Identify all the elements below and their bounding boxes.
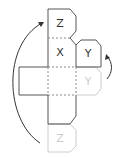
x-face-right-edge [70,38,76,67]
bottom-z-label: Z [56,132,64,145]
x-face-label: X [56,46,64,59]
flat-y-label: Y [84,75,92,88]
center-face-fold-lines [48,67,76,95]
left-face [19,67,48,95]
top-z-label: Z [56,17,64,30]
fold-arrow-small [107,56,112,79]
fold-arrow-large [13,23,42,143]
lower-face [48,95,76,124]
cube-net-diagram: Z Y Z X Y [0,0,124,158]
folded-y-label: Y [84,47,92,60]
